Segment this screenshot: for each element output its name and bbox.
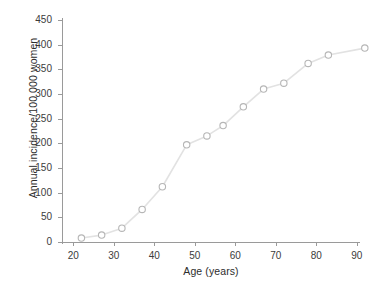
- data-point: [325, 52, 331, 58]
- data-point: [240, 104, 246, 110]
- data-point: [183, 142, 189, 148]
- data-point: [119, 225, 125, 231]
- data-point: [220, 122, 226, 128]
- data-point: [204, 133, 210, 139]
- data-point: [260, 86, 266, 92]
- series-line: [81, 48, 364, 238]
- data-point: [159, 184, 165, 190]
- series-markers: [78, 45, 368, 241]
- data-point: [362, 45, 368, 51]
- data-point: [305, 60, 311, 66]
- chart-figure: 050100150200250300350400450 203040506070…: [0, 0, 386, 295]
- data-point: [78, 235, 84, 241]
- data-point: [139, 206, 145, 212]
- series-plot: [0, 0, 386, 295]
- data-point: [98, 232, 104, 238]
- data-point: [281, 80, 287, 86]
